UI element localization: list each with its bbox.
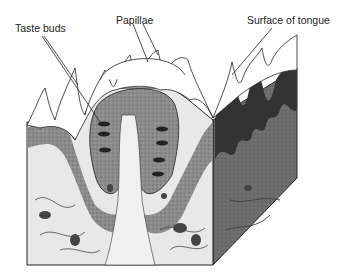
label-taste-buds: Taste buds: [15, 22, 66, 34]
label-papillae: Papillae: [116, 14, 153, 26]
front-face: [27, 88, 213, 265]
tongue-diagram: [0, 0, 343, 277]
label-surface-of-tongue: Surface of tongue: [247, 14, 330, 26]
